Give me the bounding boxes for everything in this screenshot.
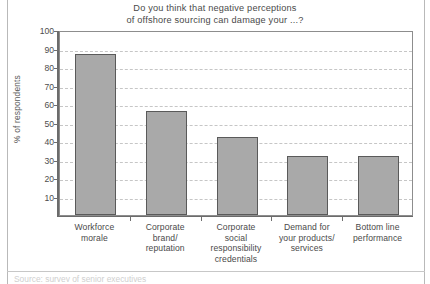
chart-figure: Do you think that negative perceptions o… [0,0,430,284]
page-frame-bottom-border [7,271,425,272]
y-tick-mark [54,50,59,51]
y-tick-mark [54,161,59,162]
bar [287,156,328,215]
chart-title: Do you think that negative perceptions o… [70,3,360,26]
x-tick-mark [342,217,343,221]
gridline [60,51,412,52]
bottom-caption-sliver: Source: survey of senior executives [14,274,344,282]
x-tick-mark [130,217,131,221]
x-category-label: Workforce morale [59,222,130,243]
bar [146,111,187,215]
y-tick-label: 80 [14,63,54,73]
y-tick-label: 70 [14,82,54,92]
y-tick-mark [54,87,59,88]
x-category-label: Corporate brand/ reputation [130,222,201,254]
x-tick-mark [201,217,202,221]
y-tick-label: 90 [14,45,54,55]
y-tick-mark [54,142,59,143]
x-category-label: Corporate social responsibility credenti… [201,222,272,264]
bar [217,137,258,215]
y-tick-mark [54,124,59,125]
y-tick-mark [54,198,59,199]
plot-area [59,31,413,216]
x-category-label: Demand for your products/ services [271,222,342,254]
x-category-label: Bottom line performance [342,222,413,243]
bar [75,54,116,215]
y-tick-label: 30 [14,156,54,166]
y-tick-label: 50 [14,119,54,129]
bar [358,156,399,215]
y-tick-mark [54,31,59,32]
y-tick-mark [54,105,59,106]
y-tick-label: 40 [14,137,54,147]
y-tick-mark [54,68,59,69]
page-frame-right-border [424,0,425,284]
y-tick-label: 60 [14,100,54,110]
page-frame-left-border [7,0,8,284]
y-tick-label: 20 [14,174,54,184]
y-tick-label: 100 [14,26,54,36]
y-tick-label: 10 [14,193,54,203]
y-tick-mark [54,179,59,180]
x-tick-mark [271,217,272,221]
